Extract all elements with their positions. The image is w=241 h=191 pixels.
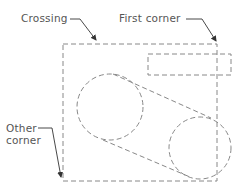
crossing-selection-diagram: [0, 0, 241, 191]
crossing-window-rectangle: [63, 44, 217, 181]
crossing-leader-arrow-icon: [70, 19, 96, 40]
other-corner-label-line2: corner: [6, 134, 41, 146]
upper-tangent-line: [113, 74, 211, 118]
right-circle-object: [169, 117, 231, 179]
first-corner-label: First corner: [119, 12, 181, 24]
small-rectangle-object: [148, 54, 231, 75]
first-corner-leader-arrow-icon: [186, 19, 216, 41]
crossing-label: Crossing: [21, 12, 68, 24]
other-corner-label-line1: Other: [6, 122, 37, 134]
other-corner-leader-arrow-icon: [38, 128, 61, 177]
left-circle-object: [77, 74, 143, 140]
lower-tangent-line: [103, 140, 190, 177]
